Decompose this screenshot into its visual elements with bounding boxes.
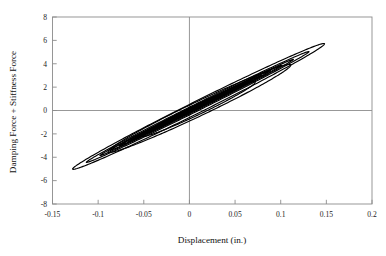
hysteresis-plot: -0.15-0.1-0.0500.050.10.150.2 -8-6-4-202… xyxy=(0,0,386,256)
y-tick-label: 8 xyxy=(43,13,47,22)
y-axis-title: Damping Force + Stiffness Force xyxy=(8,51,18,173)
x-tick-label: 0.2 xyxy=(367,210,377,219)
x-tick-label: -0.1 xyxy=(92,210,104,219)
y-tick-label: 0 xyxy=(43,106,47,115)
x-tick-label: 0.05 xyxy=(228,210,241,219)
y-tick-label: -4 xyxy=(41,153,48,162)
x-tick-label: -0.05 xyxy=(136,210,152,219)
y-tick-label: -6 xyxy=(41,176,48,185)
chart-figure: -0.15-0.1-0.0500.050.10.150.2 -8-6-4-202… xyxy=(0,0,386,256)
y-tick-label: 4 xyxy=(43,60,47,69)
x-tick-label: 0 xyxy=(188,210,192,219)
x-axis-title: Displacement (in.) xyxy=(178,235,246,245)
x-tick-label: 0.15 xyxy=(320,210,333,219)
y-tick-label: 2 xyxy=(43,83,47,92)
x-tick-label: -0.15 xyxy=(45,210,61,219)
y-tick-label: 6 xyxy=(43,36,47,45)
y-tick-label: -8 xyxy=(41,200,48,209)
y-tick-label: -2 xyxy=(41,130,48,139)
x-tick-label: 0.1 xyxy=(276,210,286,219)
